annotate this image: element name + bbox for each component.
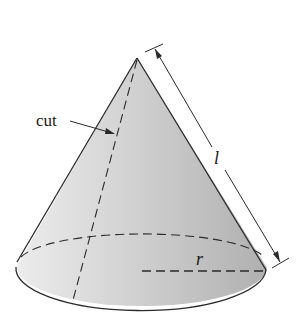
slant-height-label: l [214, 148, 219, 168]
cut-label: cut [36, 111, 57, 130]
slant-tick-bottom [272, 258, 289, 268]
slant-arrowhead-top [155, 49, 162, 59]
slant-tick-top [145, 44, 163, 52]
radius-label: r [196, 249, 204, 269]
cone-figure: cut l r [0, 0, 308, 328]
cone-body [17, 58, 267, 306]
cone-diagram: cut l r [0, 0, 308, 328]
